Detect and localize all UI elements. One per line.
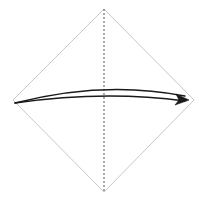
origami-diagram: Square sheet shown rotated 45 degrees as…: [0, 0, 206, 201]
diagram-canvas: Square sheet shown rotated 45 degrees as…: [0, 0, 206, 201]
square-sheet-outline: [13, 9, 194, 192]
